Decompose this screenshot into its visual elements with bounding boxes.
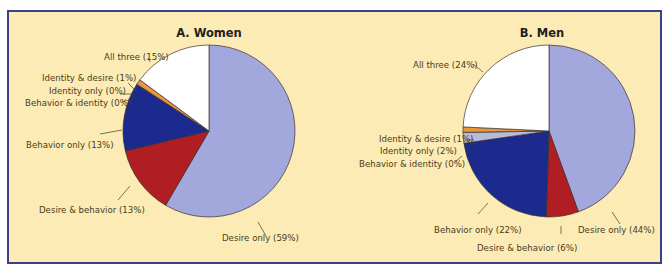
women-label-desire-only: Desire only (59%) [222, 233, 299, 243]
women-label-identity-only: Identity only (0%) [49, 86, 126, 96]
men-label-all-three: All three (24%) [413, 60, 478, 70]
men-label-desire-behavior: Desire & behavior (6%) [477, 243, 577, 253]
men-label-behavior-only: Behavior only (22%) [434, 225, 522, 235]
men-label-desire-only: Desire only (44%) [578, 225, 655, 235]
women-label-identity-desire: Identity & desire (1%) [42, 73, 136, 83]
women-label-desire-behavior: Desire & behavior (13%) [39, 205, 145, 215]
men-chart-title: B. Men [442, 26, 642, 40]
pie-charts [0, 0, 669, 276]
men-slice-all-three [463, 45, 549, 131]
women-label-behavior-identity: Behavior & identity (0%) [25, 98, 131, 108]
women-chart-title: A. Women [109, 26, 309, 40]
men-label-identity-only: Identity only (2%) [380, 146, 457, 156]
men-label-behavior-identity: Behavior & identity (0%) [359, 159, 465, 169]
leader-line [478, 203, 488, 214]
leader-line [100, 130, 122, 134]
men-slice-behavior-only [464, 131, 549, 217]
men-label-identity-desire: Identity & desire (1%) [379, 134, 473, 144]
women-label-behavior-only: Behavior only (13%) [26, 140, 114, 150]
leader-line [118, 186, 130, 200]
leader-line [612, 212, 620, 224]
women-label-all-three: All three (15%) [104, 52, 169, 62]
